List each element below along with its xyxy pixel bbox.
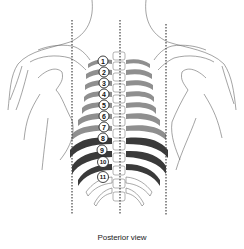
posterior-ribcage-diagram: 1 2 3 4 5 6 7 8 9 10 11 (0, 0, 244, 225)
svg-text:2: 2 (102, 69, 106, 76)
svg-text:3: 3 (102, 80, 106, 87)
svg-text:7: 7 (102, 124, 106, 131)
rib-label-10: 10 (98, 157, 109, 168)
rib-label-3: 3 (99, 78, 109, 88)
svg-text:5: 5 (102, 102, 106, 109)
figure-caption: Posterior view (0, 233, 244, 242)
rib-number-labels: 1 2 3 4 5 6 7 8 9 10 11 (97, 56, 109, 183)
rib-label-8: 8 (98, 133, 108, 143)
rib-label-11: 11 (98, 172, 109, 183)
rib-label-7: 7 (99, 122, 109, 132)
rib-label-6: 6 (99, 111, 109, 121)
svg-text:8: 8 (101, 135, 105, 142)
ribs-right (126, 59, 168, 206)
svg-text:10: 10 (100, 159, 107, 165)
svg-text:9: 9 (100, 147, 104, 154)
rib-label-2: 2 (99, 67, 109, 77)
svg-text:11: 11 (100, 174, 107, 180)
rib-label-1: 1 (98, 56, 108, 66)
rib-label-4: 4 (99, 89, 109, 99)
spine (113, 52, 125, 201)
svg-text:4: 4 (102, 91, 106, 98)
svg-text:1: 1 (101, 58, 105, 65)
rib-label-9: 9 (97, 145, 107, 155)
svg-text:6: 6 (102, 113, 106, 120)
rib-label-5: 5 (99, 100, 109, 110)
